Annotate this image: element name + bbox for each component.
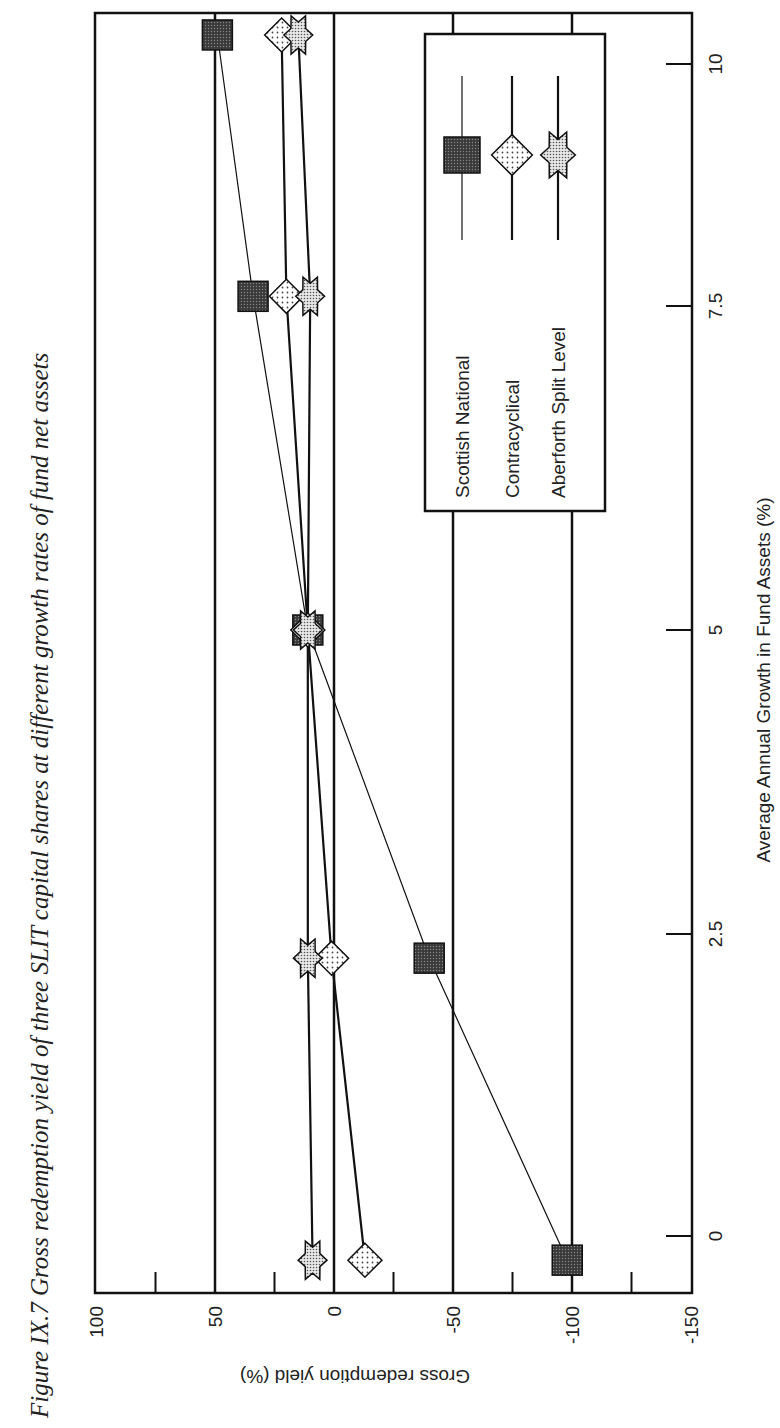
legend-label: Scottish National [452,355,473,498]
star-marker-icon [293,939,322,977]
y-tick-label: -150 [681,1306,702,1344]
x-axis-label: Average Annual Growth in Fund Assets (%) [753,497,774,862]
square-marker-icon [444,137,480,173]
series-line [282,35,365,1260]
x-axis-ticks: 02.557.510 [666,53,726,1241]
legend-label: Contracyclical [502,380,523,498]
x-tick-label: 10 [705,53,726,74]
star-marker-icon [298,1241,327,1279]
square-marker-icon [414,943,444,973]
figure-title: Figure IX.7 Gross redemption yield of th… [26,353,53,1419]
y-tick-label: -50 [443,1306,464,1333]
x-tick-label: 7.5 [705,293,726,319]
y-tick-label: -100 [562,1306,583,1344]
legend: Scottish NationalContracyclicalAberforth… [425,34,605,511]
star-marker-icon [284,16,313,54]
square-marker-icon [202,20,232,50]
y-tick-label: 100 [86,1306,107,1338]
diamond-marker-icon [348,1243,382,1277]
star-marker-icon [296,277,325,315]
x-tick-label: 0 [705,1231,726,1242]
x-tick-label: 5 [705,625,726,636]
square-marker-icon [238,281,268,311]
square-marker-icon [552,1245,582,1275]
legend-label: Aberforth Split Level [548,327,569,498]
chart: Figure IX.7 Gross redemption yield of th… [0,0,780,1428]
x-tick-label: 2.5 [705,921,726,947]
y-axis-label: Gross redemption yield (%) [240,1366,470,1387]
y-tick-label: 50 [205,1306,226,1327]
y-tick-label: 0 [324,1306,345,1317]
y-axis-ticks: 100500-50-100-150 [86,1272,702,1344]
